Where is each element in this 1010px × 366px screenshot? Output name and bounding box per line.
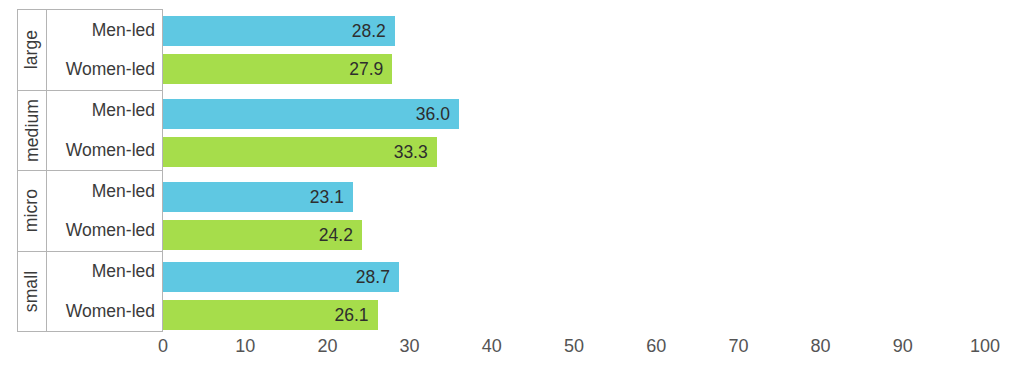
category-group-label-cell: micro — [18, 171, 47, 251]
bar-value-label: 28.7 — [356, 267, 399, 288]
x-axis: 0102030405060708090100 — [163, 336, 1010, 366]
x-tick-label: 0 — [158, 336, 168, 357]
bar-value-label: 28.2 — [352, 21, 395, 42]
category-group-small: smallMen-ledWomen-led — [18, 252, 162, 332]
category-group-medium: mediumMen-ledWomen-led — [18, 91, 162, 172]
bar-row: 24.2 — [163, 220, 362, 250]
category-group-label-cell: large — [18, 10, 47, 90]
bar-row: 36.0 — [163, 99, 459, 129]
series-label-women: Women-led — [47, 60, 162, 78]
x-tick-label: 80 — [811, 336, 831, 357]
bar-micro-men: 23.1 — [163, 182, 353, 212]
bar-value-label: 23.1 — [310, 187, 353, 208]
series-label-cell: Men-ledWomen-led — [47, 10, 162, 90]
category-label-table: largeMen-ledWomen-ledmediumMen-ledWomen-… — [17, 9, 163, 332]
plot-area: 28.227.936.033.323.124.228.726.1 — [163, 9, 1010, 332]
bar-micro-women: 24.2 — [163, 220, 362, 250]
x-tick-label: 30 — [400, 336, 420, 357]
bar-value-label: 27.9 — [349, 59, 392, 80]
bar-row: 27.9 — [163, 54, 392, 84]
series-label-women: Women-led — [47, 141, 162, 159]
x-tick-label: 20 — [317, 336, 337, 357]
bar-medium-men: 36.0 — [163, 99, 459, 129]
bar-value-label: 24.2 — [319, 225, 362, 246]
category-group-label: micro — [22, 189, 43, 232]
bar-large-men: 28.2 — [163, 16, 395, 46]
category-group-label-cell: small — [18, 252, 47, 332]
bar-row: 33.3 — [163, 137, 437, 167]
bar-row: 28.2 — [163, 16, 395, 46]
category-group-label-cell: medium — [18, 91, 47, 171]
series-label-men: Men-led — [47, 101, 162, 119]
x-tick-label: 70 — [728, 336, 748, 357]
series-label-men: Men-led — [47, 182, 162, 200]
bar-small-women: 26.1 — [163, 300, 378, 330]
category-group-label: small — [22, 271, 43, 312]
bar-large-women: 27.9 — [163, 54, 392, 84]
bar-row: 26.1 — [163, 300, 378, 330]
series-label-women: Women-led — [47, 302, 162, 320]
bar-chart: largeMen-ledWomen-ledmediumMen-ledWomen-… — [0, 0, 1010, 366]
category-group-large: largeMen-ledWomen-led — [18, 10, 162, 91]
x-tick-label: 50 — [564, 336, 584, 357]
x-tick-label: 90 — [893, 336, 913, 357]
bar-value-label: 36.0 — [416, 104, 459, 125]
x-tick-label: 60 — [646, 336, 666, 357]
series-label-men: Men-led — [47, 262, 162, 280]
bar-small-men: 28.7 — [163, 262, 399, 292]
bar-medium-women: 33.3 — [163, 137, 437, 167]
series-label-men: Men-led — [47, 21, 162, 39]
x-tick-label: 10 — [235, 336, 255, 357]
series-label-cell: Men-ledWomen-led — [47, 171, 162, 251]
category-group-label: medium — [22, 99, 43, 162]
x-tick-label: 40 — [482, 336, 502, 357]
category-group-label: large — [22, 30, 43, 69]
series-label-cell: Men-ledWomen-led — [47, 252, 162, 332]
bar-value-label: 33.3 — [394, 142, 437, 163]
bar-row: 23.1 — [163, 182, 353, 212]
bar-value-label: 26.1 — [334, 305, 377, 326]
category-group-micro: microMen-ledWomen-led — [18, 171, 162, 252]
x-tick-label: 100 — [970, 336, 1000, 357]
series-label-cell: Men-ledWomen-led — [47, 91, 162, 171]
bar-row: 28.7 — [163, 262, 399, 292]
series-label-women: Women-led — [47, 221, 162, 239]
